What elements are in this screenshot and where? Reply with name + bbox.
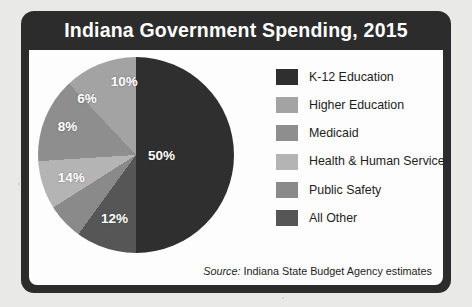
pie-slice-label: 6%	[77, 91, 97, 106]
legend-item: Medicaid	[276, 119, 436, 147]
legend-swatch-icon	[276, 69, 298, 85]
pie-slice-label: 10%	[111, 73, 138, 88]
chart-title-band: Indiana Government Spending, 2015	[21, 11, 451, 50]
legend-item-label: K-12 Education	[309, 71, 394, 83]
chart-card: Indiana Government Spending, 2015 50%12%…	[21, 11, 451, 293]
legend-item: Higher Education	[276, 91, 436, 119]
legend-item: Health & Human Services	[276, 148, 436, 176]
legend-item: Public Safety	[276, 176, 436, 204]
pie-slice-label: 8%	[58, 118, 78, 133]
source-text: Indiana State Budget Agency estimates	[244, 265, 432, 277]
legend-item-label: Health & Human Services	[309, 155, 443, 167]
pie-chart: 50%12%14%8%6%10%	[38, 57, 234, 253]
pie-slice-label: 12%	[101, 210, 128, 225]
legend-item-label: Public Safety	[309, 184, 381, 196]
legend-item-label: All Other	[309, 212, 357, 224]
legend-item-label: Medicaid	[309, 127, 359, 139]
chart-plot-area: 50%12%14%8%6%10% K-12 EducationHigher Ed…	[29, 50, 443, 285]
legend-swatch-icon	[276, 182, 298, 198]
source-note: Source: Indiana State Budget Agency esti…	[203, 265, 432, 277]
chart-legend: K-12 EducationHigher EducationMedicaidHe…	[276, 63, 436, 232]
pie-slice-label: 14%	[58, 169, 85, 184]
legend-swatch-icon	[276, 154, 298, 170]
legend-item: All Other	[276, 204, 436, 232]
page-title: Indiana Government Spending, 2015	[64, 21, 408, 41]
legend-swatch-icon	[276, 97, 298, 113]
legend-item-label: Higher Education	[309, 99, 404, 111]
legend-swatch-icon	[276, 125, 298, 141]
source-label: Source:	[203, 265, 240, 277]
legend-item: K-12 Education	[276, 63, 436, 91]
pie-slice-label: 50%	[148, 148, 175, 163]
legend-swatch-icon	[276, 210, 298, 226]
